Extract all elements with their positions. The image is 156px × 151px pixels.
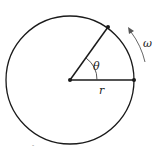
theta-label: θ: [93, 60, 100, 73]
center-point: [68, 78, 72, 82]
rim-point-rotated: [106, 25, 110, 29]
rotating-circle-diagram: θ r ω -: [0, 0, 156, 151]
rim-point-initial: [132, 78, 136, 82]
r-label: r: [99, 84, 105, 97]
rotated-radius-line: [70, 27, 108, 80]
omega-label: ω: [143, 37, 152, 50]
small-mark: -: [32, 141, 34, 148]
arrowhead-icon: [128, 27, 134, 34]
